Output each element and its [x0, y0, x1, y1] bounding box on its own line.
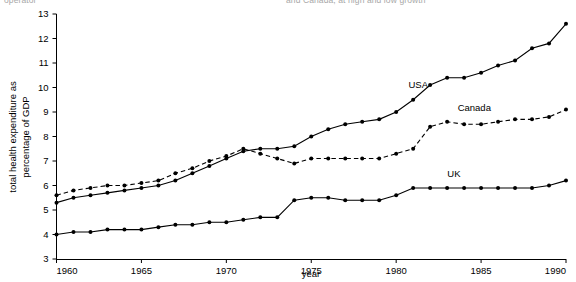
data-point-usa	[547, 41, 551, 45]
data-point-uk	[445, 186, 449, 190]
x-tick-label: 1980	[386, 265, 407, 276]
data-point-usa	[360, 120, 364, 124]
data-point-uk	[207, 220, 211, 224]
data-point-usa	[88, 193, 92, 197]
y-tick-label: 7	[43, 155, 48, 166]
data-point-uk	[71, 230, 75, 234]
data-point-usa	[343, 122, 347, 126]
data-point-usa	[445, 76, 449, 80]
data-point-uk	[513, 186, 517, 190]
data-point-usa	[139, 186, 143, 190]
data-point-uk	[224, 220, 228, 224]
data-point-uk	[275, 215, 279, 219]
data-point-usa	[377, 117, 381, 121]
data-point-usa	[564, 22, 568, 26]
y-tick-label: 5	[43, 204, 48, 215]
data-point-usa	[326, 127, 330, 131]
y-tick-label: 13	[38, 8, 49, 19]
data-point-usa	[394, 110, 398, 114]
data-point-canada	[207, 159, 211, 163]
data-point-canada	[496, 120, 500, 124]
data-point-usa	[428, 83, 432, 87]
data-point-uk	[411, 186, 415, 190]
data-point-canada	[258, 152, 262, 156]
data-point-canada	[547, 115, 551, 119]
data-point-canada	[479, 122, 483, 126]
data-point-canada	[360, 157, 364, 161]
y-tick-label: 8	[43, 131, 48, 142]
data-point-uk	[547, 184, 551, 188]
data-point-uk	[394, 193, 398, 197]
data-point-usa	[105, 191, 109, 195]
y-tick-label: 3	[43, 253, 48, 264]
data-point-uk	[326, 196, 330, 200]
data-point-usa	[530, 46, 534, 50]
chart-container: operator and Canada, at high and low gro…	[0, 0, 576, 282]
series-label-canada: Canada	[458, 102, 492, 113]
data-point-canada	[513, 117, 517, 121]
data-point-canada	[326, 157, 330, 161]
data-point-canada	[343, 157, 347, 161]
data-point-canada	[122, 184, 126, 188]
data-point-usa	[462, 76, 466, 80]
data-point-uk	[139, 228, 143, 232]
data-point-uk	[122, 228, 126, 232]
data-point-canada	[411, 147, 415, 151]
svg-text:percentage of GDP: percentage of GDP	[20, 96, 31, 177]
data-point-uk	[360, 198, 364, 202]
x-tick-label: 1970	[216, 265, 237, 276]
data-point-canada	[105, 184, 109, 188]
y-tick-label: 6	[43, 180, 48, 191]
y-axis-tick-labels: 345678910111213	[38, 8, 49, 264]
y-tick-label: 10	[38, 82, 49, 93]
data-point-uk	[496, 186, 500, 190]
data-point-usa	[496, 63, 500, 67]
y-axis-ticks	[53, 14, 57, 259]
data-point-usa	[207, 164, 211, 168]
x-tick-label: 1985	[471, 265, 492, 276]
y-tick-label: 12	[38, 33, 49, 44]
data-point-uk	[156, 225, 160, 229]
data-point-usa	[173, 179, 177, 183]
data-point-canada	[224, 154, 228, 158]
x-axis-title: year	[302, 268, 320, 279]
data-point-uk	[343, 198, 347, 202]
series-lines	[57, 24, 567, 235]
data-point-canada	[173, 171, 177, 175]
data-point-usa	[411, 98, 415, 102]
data-point-canada	[241, 147, 245, 151]
data-point-usa	[258, 147, 262, 151]
data-point-uk	[479, 186, 483, 190]
data-point-uk	[377, 198, 381, 202]
data-point-usa	[122, 188, 126, 192]
data-point-usa	[479, 71, 483, 75]
data-point-usa	[156, 184, 160, 188]
series-markers	[55, 22, 569, 237]
data-point-canada	[55, 193, 59, 197]
data-point-uk	[190, 223, 194, 227]
data-point-canada	[445, 120, 449, 124]
data-point-canada	[309, 157, 313, 161]
data-point-uk	[173, 223, 177, 227]
data-point-uk	[105, 228, 109, 232]
data-point-uk	[462, 186, 466, 190]
data-point-uk	[564, 179, 568, 183]
data-point-uk	[55, 233, 59, 237]
data-point-uk	[258, 215, 262, 219]
y-axis-title: total health expenditure as percentage o…	[7, 81, 31, 193]
data-point-canada	[428, 125, 432, 129]
data-point-usa	[55, 201, 59, 205]
data-point-usa	[275, 147, 279, 151]
y-tick-label: 11	[39, 57, 49, 68]
data-point-usa	[513, 59, 517, 63]
data-point-canada	[156, 179, 160, 183]
cropped-header-text-left: operator	[4, 0, 36, 5]
data-point-uk	[309, 196, 313, 200]
line-chart-plot: 345678910111213 196019651970197519801985…	[0, 0, 576, 282]
svg-text:total health expenditure as: total health expenditure as	[7, 81, 18, 193]
data-point-uk	[292, 198, 296, 202]
data-point-uk	[428, 186, 432, 190]
x-tick-label: 1965	[131, 265, 152, 276]
data-point-canada	[377, 157, 381, 161]
data-point-canada	[292, 161, 296, 165]
